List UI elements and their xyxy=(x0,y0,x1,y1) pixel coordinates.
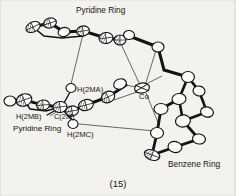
contact-line-ring-to-h2ma xyxy=(71,34,83,84)
bond-co-lower-left xyxy=(114,92,137,100)
thermal-ellipsoid xyxy=(182,72,195,83)
label-metal-co: Co xyxy=(139,92,150,101)
thermal-ellipsoid xyxy=(167,140,183,153)
thermal-ellipsoid xyxy=(14,92,33,109)
thermal-ellipsoid xyxy=(36,99,50,110)
thermal-ellipsoid xyxy=(172,93,187,105)
thermal-ellipsoid xyxy=(4,96,16,106)
bond-c2m-to-h2ma xyxy=(64,92,70,103)
thermal-ellipsoid xyxy=(152,42,164,52)
thermal-ellipsoid xyxy=(112,77,128,91)
label-h2mb: H(2MB) xyxy=(16,112,41,121)
thermal-ellipsoid xyxy=(98,32,113,45)
thermal-ellipsoid xyxy=(199,105,214,118)
thermal-ellipsoid xyxy=(154,104,168,115)
label-pyridine-ring-top: Pyridine Ring xyxy=(76,5,126,15)
thermal-ellipsoid xyxy=(143,148,161,163)
bond-co-to-ring-right xyxy=(145,50,156,86)
label-h2ma: H(2MA) xyxy=(77,85,104,94)
thermal-ellipsoid xyxy=(77,98,94,113)
thermal-ellipsoid xyxy=(76,25,91,37)
thermal-ellipsoid xyxy=(192,133,206,145)
label-benzene-ring: Benzene Ring xyxy=(168,159,221,169)
ortep-crystal-structure-figure: Pyridine Ring H(2MA) Co H(2MB) C(2M) Pyr… xyxy=(0,0,236,196)
figure-caption: (15) xyxy=(110,178,127,189)
thermal-ellipsoid xyxy=(66,84,76,93)
thermal-ellipsoid xyxy=(123,30,135,40)
label-h2mc: H(2MC) xyxy=(67,130,94,139)
label-c2m: C(2M) xyxy=(54,112,75,121)
thermal-ellipsoid xyxy=(151,128,164,139)
bond-co-axial xyxy=(148,76,162,83)
label-pyridine-ring-left: Pyridine Ring xyxy=(13,124,61,133)
